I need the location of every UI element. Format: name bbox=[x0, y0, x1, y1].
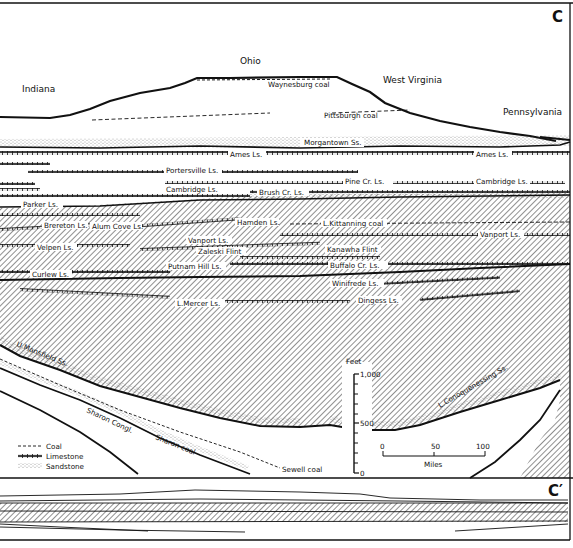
unit-label: Velpen Ls. bbox=[37, 243, 74, 252]
unit-label: Waynesburg coal bbox=[268, 80, 330, 89]
legend: Coal Limestone Sandstone bbox=[18, 442, 85, 471]
pittsburgh-coal-line bbox=[92, 113, 270, 120]
unit-label: Pittsburgh coal bbox=[324, 111, 378, 120]
state-label-indiana: Indiana bbox=[22, 84, 55, 94]
unit-label: Brereton Ls. bbox=[44, 221, 87, 230]
unit-label: Vanport Ls. bbox=[480, 230, 520, 239]
unit-label: Putnam Hill Ls. bbox=[168, 262, 222, 271]
unit-label: Curlew Ls. bbox=[32, 270, 69, 279]
horizontal-scale-title: Miles bbox=[424, 460, 443, 469]
unit-label: Sewell coal bbox=[282, 465, 322, 474]
unit-label: Buffalo Cr. Ls. bbox=[330, 261, 379, 270]
unit-label: Brush Cr. Ls. bbox=[259, 188, 304, 197]
unit-label: Ames Ls. bbox=[476, 150, 508, 159]
horizontal-scale-miles: 0 50 100 Miles bbox=[380, 442, 490, 469]
state-label-pennsylvania: Pennsylvania bbox=[503, 107, 562, 117]
vertical-scale-tick: 0 bbox=[360, 469, 365, 478]
unit-label: Hamden Ls. bbox=[237, 218, 280, 227]
unit-label: Cambridge Ls. bbox=[166, 185, 218, 194]
vertical-scale-title: Feet bbox=[346, 357, 362, 366]
horizontal-scale-tick: 0 bbox=[380, 442, 385, 451]
unit-label: Ames Ls. bbox=[230, 150, 262, 159]
legend-sandstone-swatch bbox=[18, 463, 42, 468]
panel-c-prime bbox=[0, 478, 573, 540]
vertical-scale-tick: 1,000 bbox=[360, 370, 381, 379]
unit-label: Vanport Ls. bbox=[188, 236, 228, 245]
panel-label-c: C bbox=[552, 8, 563, 26]
legend-label-sandstone: Sandstone bbox=[46, 462, 85, 471]
vertical-scale-tick: 500 bbox=[360, 419, 374, 428]
unit-label: Morgantown Ss. bbox=[304, 138, 361, 147]
unit-label: L.Mercer Ls. bbox=[177, 299, 220, 308]
legend-limestone-swatch bbox=[18, 454, 42, 458]
panel-label-c-prime: C′ bbox=[548, 482, 563, 500]
state-label-ohio: Ohio bbox=[240, 56, 261, 66]
unit-label: Cambridge Ls. bbox=[476, 177, 528, 186]
unit-label: Dingess Ls. bbox=[358, 296, 399, 305]
geologic-cross-section: C bbox=[0, 0, 573, 548]
unit-label: L.Kittanning coal bbox=[323, 219, 383, 228]
unit-label: Winifrede Ls. bbox=[332, 279, 379, 288]
unit-label: Parker Ls. bbox=[23, 200, 58, 209]
unit-label: Kanawha Flint bbox=[327, 245, 378, 254]
legend-label-coal: Coal bbox=[46, 442, 62, 451]
unit-label: Alum Cove Ls. bbox=[92, 222, 143, 231]
unit-label: Zaleski Flint bbox=[198, 247, 242, 256]
unit-label: Pine Cr. Ls. bbox=[345, 177, 384, 186]
horizontal-scale-tick: 100 bbox=[476, 442, 490, 451]
state-label-west-virginia: West Virginia bbox=[383, 75, 442, 85]
unit-label: Portersville Ls. bbox=[166, 166, 218, 175]
legend-label-limestone: Limestone bbox=[46, 452, 84, 461]
horizontal-scale-tick: 50 bbox=[431, 442, 441, 451]
